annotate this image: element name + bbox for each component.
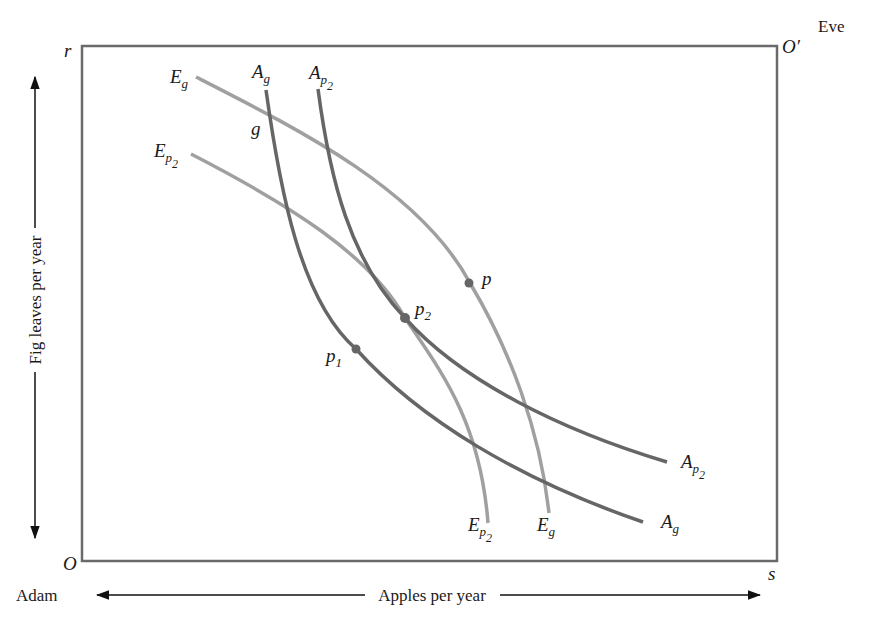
corner-r-label: r: [64, 40, 72, 61]
x-axis-label: Apples per year: [378, 586, 486, 605]
curve-Ag: [266, 90, 643, 522]
point-p1: [352, 345, 361, 354]
label-Ag-top: Ag: [250, 61, 271, 86]
edgeworth-box: [82, 46, 777, 561]
edgeworth-box-diagram: r O O′ s Eve Adam Apples per year Fig le…: [0, 0, 872, 623]
label-Ag-right: Ag: [659, 511, 680, 536]
curve-Eg: [196, 77, 549, 513]
label-point-p2: p2: [413, 298, 432, 323]
curve-Ep2: [191, 154, 488, 523]
label-point-p: p: [480, 268, 492, 289]
label-Eg-top: Eg: [169, 66, 189, 91]
point-p: [465, 279, 474, 288]
corner-s-label: s: [768, 563, 775, 584]
label-Ep2-top: Ep2: [153, 140, 178, 171]
adam-label: Adam: [16, 586, 58, 605]
label-Eg-bottom: Eg: [536, 514, 556, 539]
point-p2: [400, 313, 410, 323]
y-axis-label: Fig leaves per year: [26, 235, 45, 364]
eve-label: Eve: [818, 17, 844, 36]
label-Ap2-top: Ap2: [307, 62, 333, 93]
corner-O-label: O: [63, 553, 77, 574]
label-point-p1: p1: [324, 345, 342, 370]
label-point-g: g: [251, 118, 261, 139]
label-Ap2-right: Ap2: [679, 451, 705, 482]
corner-Oprime-label: O′: [782, 36, 801, 57]
curve-Ap2: [318, 89, 667, 462]
